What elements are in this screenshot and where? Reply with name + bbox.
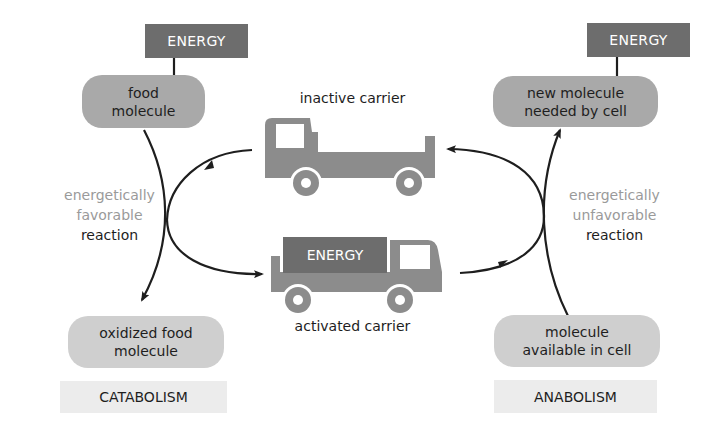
unfavorable-reaction-label: energetically unfavorable reaction (552, 185, 677, 245)
oxidized-molecule-line1: oxidized food (99, 324, 192, 342)
available-molecule-line1: molecule (545, 323, 609, 341)
catabolism-category-box: CATABOLISM (60, 381, 227, 413)
oxidized-molecule-line2: molecule (114, 342, 178, 360)
food-molecule-pill: food molecule (82, 75, 205, 128)
reaction-line2: favorable (52, 205, 167, 225)
new-molecule-line1: new molecule (527, 84, 624, 102)
carrier-deactivation-arrow (448, 149, 544, 273)
inactive-carrier-label: inactive carrier (280, 90, 425, 106)
reaction-line3: reaction (552, 225, 677, 245)
food-molecule-line1: food (128, 84, 159, 102)
new-molecule-pill: new molecule needed by cell (493, 76, 658, 127)
anabolism-category-box: ANABOLISM (494, 380, 657, 413)
reaction-line2: unfavorable (552, 205, 677, 225)
available-molecule-line2: available in cell (523, 341, 632, 359)
anabolism-label: ANABOLISM (534, 389, 617, 405)
activated-carrier-label: activated carrier (280, 318, 425, 334)
new-molecule-line2: needed by cell (524, 102, 627, 120)
energy-label: ENERGY (167, 33, 225, 49)
carrier-activation-arrow (167, 150, 262, 274)
favorable-reaction-label: energetically favorable reaction (52, 185, 167, 245)
catabolism-label: CATABOLISM (99, 389, 188, 405)
reaction-line1: energetically (552, 185, 677, 205)
activated-carrier-energy-label: ENERGY (283, 237, 387, 273)
energy-box-anabolism: ENERGY (587, 23, 690, 57)
energy-label: ENERGY (609, 32, 667, 48)
truck-empty-icon (265, 118, 435, 199)
oxidized-food-molecule-pill: oxidized food molecule (68, 316, 224, 368)
reaction-line3: reaction (52, 225, 167, 245)
reaction-line1: energetically (52, 185, 167, 205)
molecule-available-pill: molecule available in cell (494, 315, 660, 367)
energy-box-catabolism: ENERGY (145, 24, 248, 58)
food-molecule-line2: molecule (112, 102, 176, 120)
